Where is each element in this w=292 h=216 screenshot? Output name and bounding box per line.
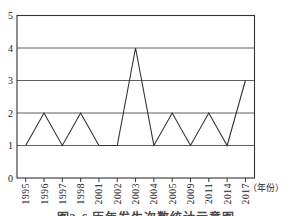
plot-border [17, 16, 255, 179]
x-tick-label: 2002 [113, 183, 123, 204]
x-tick-label: 2003 [131, 183, 141, 204]
x-tick-label: 1996 [40, 183, 50, 204]
x-tick-label: 1995 [21, 183, 31, 204]
y-tick-label: 0 [8, 173, 13, 184]
x-tick-label: 2005 [168, 183, 178, 204]
x-axis-unit-label: （年份） [248, 182, 284, 193]
figure-caption: 图3-6 历年发生次数统计示意图 [0, 208, 292, 216]
y-tick-label: 3 [8, 75, 13, 86]
x-tick-label: 2014 [223, 183, 233, 204]
x-tick-label: 2009 [186, 183, 196, 204]
x-tick-label: 1997 [58, 183, 68, 204]
data-series-line [26, 48, 246, 146]
x-tick-label: 2004 [149, 183, 159, 204]
x-tick-label: 1998 [76, 183, 86, 204]
y-tick-label: 1 [8, 140, 13, 151]
chart-svg: 0123451995199619971998200120022003200420… [0, 0, 292, 216]
y-tick-label: 2 [8, 108, 13, 119]
chart-page: 0123451995199619971998200120022003200420… [0, 0, 292, 216]
y-tick-label: 5 [8, 10, 13, 21]
x-tick-label: 2001 [94, 183, 104, 204]
x-tick-label: 2011 [204, 183, 214, 204]
y-tick-label: 4 [8, 43, 13, 54]
